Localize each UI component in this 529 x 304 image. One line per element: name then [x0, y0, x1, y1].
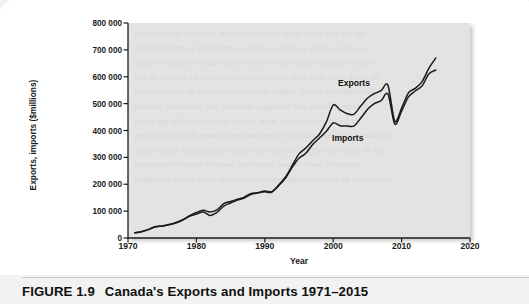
x-tick-label: 1970 [118, 241, 137, 251]
x-tick-label: 1980 [187, 241, 206, 251]
caption-divider [22, 277, 529, 278]
chart-axes [124, 23, 471, 243]
chart-plot-wrapper: lorem ipsum dolor sit amet consectetur a… [0, 0, 529, 275]
x-tick-label: 2000 [324, 241, 343, 251]
figure-root: lorem ipsum dolor sit amet consectetur a… [0, 0, 529, 304]
figure-card: lorem ipsum dolor sit amet consectetur a… [0, 0, 529, 275]
x-tick-label: 2020 [460, 241, 479, 251]
series-annotation-imports: Imports [332, 133, 364, 143]
x-axis-label: Year [128, 256, 470, 266]
x-tick-label: 1990 [255, 241, 274, 251]
figure-caption-title: Canada's Exports and Imports 1971–2015 [105, 284, 368, 299]
x-axis-tick-labels: 1970 1980 1990 2000 2010 2020 [0, 241, 529, 255]
x-tick-label: 2010 [392, 241, 411, 251]
figure-caption: FIGURE 1.9Canada's Exports and Imports 1… [22, 284, 368, 299]
chart-series-lines [135, 58, 436, 233]
series-annotation-exports: Exports [338, 78, 370, 88]
figure-number: FIGURE 1.9 [22, 284, 95, 299]
chart-svg [0, 0, 529, 275]
